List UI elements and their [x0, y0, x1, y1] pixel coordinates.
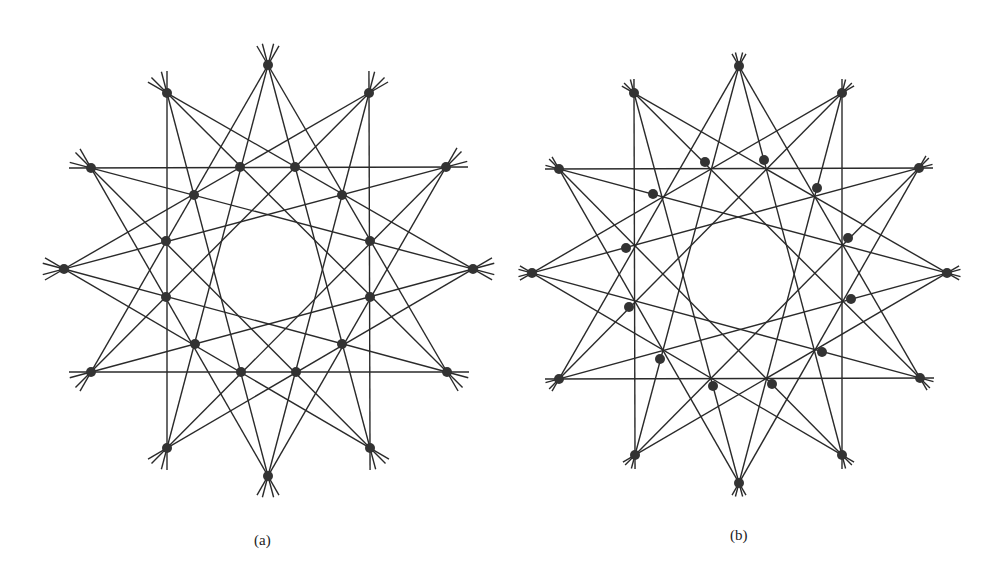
vertex-dot — [365, 292, 375, 302]
edge-line — [75, 152, 385, 463]
vertex-dot — [655, 354, 665, 364]
vertex-dot — [291, 367, 301, 377]
edge-line — [732, 54, 927, 390]
figure-b-perturbed-star — [518, 52, 960, 496]
edge-line — [148, 82, 492, 280]
vertex-dot — [817, 347, 827, 357]
edge-line — [520, 86, 854, 280]
vertex-dot — [263, 471, 273, 481]
edge-line — [80, 46, 279, 391]
edge-line — [80, 149, 279, 495]
vertex-dot — [235, 162, 245, 172]
vertex-dot — [708, 381, 718, 391]
edge-line — [520, 266, 854, 462]
edge-line — [518, 164, 932, 276]
vertex-dot — [914, 163, 924, 173]
vertex-dot — [190, 339, 200, 349]
vertex-dot — [648, 189, 658, 199]
edge-line — [262, 72, 374, 498]
vertex-dot — [263, 60, 273, 70]
edge-line — [518, 269, 933, 381]
edge-line — [262, 44, 375, 470]
vertex-dot — [86, 367, 96, 377]
vertex-dot — [364, 88, 374, 98]
edge-line — [545, 378, 934, 379]
vertex-dot — [365, 236, 375, 246]
vertex-dot — [236, 367, 246, 377]
vertex-dot — [734, 61, 744, 71]
edge-line — [735, 52, 845, 468]
vertex-dot — [86, 163, 96, 173]
vertex-dot — [527, 268, 537, 278]
edge-line — [630, 79, 742, 496]
figure-b-points — [527, 61, 952, 488]
figure-a-regular-star — [43, 44, 495, 498]
vertex-dot — [365, 443, 375, 453]
vertex-dot — [915, 373, 925, 383]
vertex-dot — [161, 292, 171, 302]
figure-a-lines — [43, 44, 495, 498]
edge-line — [545, 168, 933, 169]
vertex-dot — [468, 264, 478, 274]
vertex-dot — [161, 236, 171, 246]
edge-line — [70, 162, 495, 274]
edge-line — [69, 167, 468, 168]
edge-line — [732, 156, 926, 495]
edge-line — [257, 46, 458, 391]
vertex-dot — [734, 478, 744, 488]
vertex-dot — [162, 443, 172, 453]
vertex-dot — [441, 162, 451, 172]
edge-line — [625, 158, 929, 465]
vertex-dot — [942, 268, 952, 278]
vertex-dot — [700, 157, 710, 167]
vertex-dot — [337, 339, 347, 349]
vertex-dot — [554, 374, 564, 384]
edge-line — [623, 266, 959, 462]
vertex-dot — [621, 243, 631, 253]
edge-line — [43, 263, 468, 377]
vertex-dot — [629, 88, 639, 98]
vertex-dot — [759, 155, 769, 165]
vertex-dot — [554, 164, 564, 174]
edge-line — [148, 258, 492, 459]
edge-line — [369, 71, 370, 470]
figure-b-caption: (b) — [730, 527, 748, 544]
vertex-dot — [162, 88, 172, 98]
vertex-dot — [767, 379, 777, 389]
vertex-dot — [843, 233, 853, 243]
edge-line — [634, 79, 635, 469]
edge-line — [552, 157, 746, 495]
figure-a-points — [59, 60, 478, 481]
vertex-dot — [630, 450, 640, 460]
vertex-dot — [846, 294, 856, 304]
vertex-dot — [59, 264, 69, 274]
vertex-dot — [290, 162, 300, 172]
edge-line — [631, 52, 742, 468]
figure-b-lines — [518, 52, 960, 496]
edge-line — [45, 258, 389, 459]
edge-line — [45, 82, 388, 280]
edge-line — [43, 161, 468, 274]
vertex-dot — [442, 367, 452, 377]
star-polygon-diagrams — [0, 0, 1004, 568]
edge-line — [257, 148, 457, 495]
vertex-dot — [812, 183, 822, 193]
vertex-dot — [337, 190, 347, 200]
vertex-dot — [189, 190, 199, 200]
edge-line — [151, 151, 461, 463]
vertex-dot — [624, 302, 634, 312]
vertex-dot — [837, 88, 847, 98]
figure-a-caption: (a) — [254, 532, 271, 549]
vertex-dot — [837, 450, 847, 460]
